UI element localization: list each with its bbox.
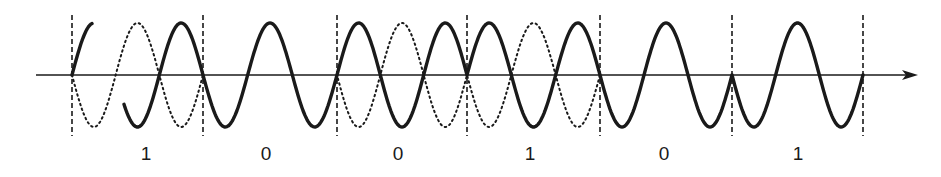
bit-label: 0 [659,143,670,165]
bit-label: 1 [525,143,536,165]
bit-label: 0 [393,143,404,165]
bit-label: 1 [141,143,152,165]
bit-label: 0 [261,143,272,165]
bit-label: 1 [793,143,804,165]
